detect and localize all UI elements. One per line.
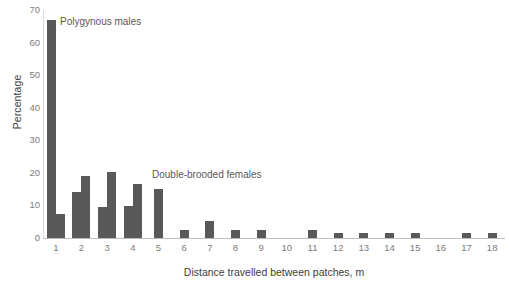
x-tick-label: 12 xyxy=(325,243,351,253)
y-tick-label: 10 xyxy=(14,200,40,210)
x-tick-label: 13 xyxy=(351,243,377,253)
y-tick-label: 30 xyxy=(14,135,40,145)
x-tick-label: 17 xyxy=(454,243,480,253)
bar xyxy=(98,207,107,238)
bar-group xyxy=(300,10,326,238)
bar-group xyxy=(146,10,172,238)
bar-chart: Percentage 010203040506070 1234567891011… xyxy=(0,0,509,281)
x-axis-title: Distance travelled between patches, m xyxy=(43,266,505,278)
x-tick-label: 3 xyxy=(94,243,120,253)
bar xyxy=(133,184,142,238)
bar xyxy=(257,230,266,238)
bar-group xyxy=(351,10,377,238)
y-tick-label: 50 xyxy=(14,70,40,80)
bar xyxy=(56,214,65,238)
x-tick-label: 5 xyxy=(146,243,172,253)
bar-group xyxy=(94,10,120,238)
y-tick-label: 70 xyxy=(14,5,40,15)
x-tick-label: 10 xyxy=(274,243,300,253)
y-tick-label: 0 xyxy=(14,233,40,243)
plot-area xyxy=(43,10,505,238)
bar xyxy=(308,230,317,238)
x-tick-label: 11 xyxy=(300,243,326,253)
annotation-double-brooded-females: Double-brooded females xyxy=(152,169,262,180)
bar xyxy=(154,189,163,238)
bar-group xyxy=(377,10,403,238)
y-tick-label: 40 xyxy=(14,103,40,113)
x-tick-label: 18 xyxy=(479,243,505,253)
y-tick-label: 60 xyxy=(14,38,40,48)
bar xyxy=(47,20,56,238)
bar xyxy=(180,230,189,238)
bar-group xyxy=(248,10,274,238)
x-axis-line xyxy=(43,238,505,239)
bar xyxy=(124,206,133,238)
bar xyxy=(205,221,214,238)
bar-group xyxy=(69,10,95,238)
bar xyxy=(107,172,116,238)
bar-group xyxy=(120,10,146,238)
bar-group xyxy=(43,10,69,238)
x-tick-label: 4 xyxy=(120,243,146,253)
bar-group xyxy=(223,10,249,238)
x-tick-label: 9 xyxy=(248,243,274,253)
x-tick-label: 15 xyxy=(402,243,428,253)
bar-group xyxy=(454,10,480,238)
bar-group xyxy=(274,10,300,238)
x-tick-label: 1 xyxy=(43,243,69,253)
x-tick-label: 6 xyxy=(171,243,197,253)
bar-group xyxy=(428,10,454,238)
bar xyxy=(231,230,240,238)
bar-group xyxy=(197,10,223,238)
bar-group xyxy=(325,10,351,238)
x-tick-label: 16 xyxy=(428,243,454,253)
bar xyxy=(72,192,81,238)
x-tick-label: 14 xyxy=(377,243,403,253)
bar-group xyxy=(479,10,505,238)
bar xyxy=(81,176,90,238)
bar-group xyxy=(171,10,197,238)
x-tick-label: 7 xyxy=(197,243,223,253)
annotation-polygynous-males: Polygynous males xyxy=(60,16,141,27)
bar-group xyxy=(402,10,428,238)
x-tick-label: 2 xyxy=(69,243,95,253)
x-tick-label: 8 xyxy=(223,243,249,253)
y-tick-label: 20 xyxy=(14,168,40,178)
